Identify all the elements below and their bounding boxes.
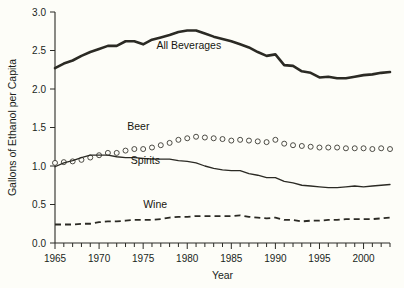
series-all-beverages <box>55 30 390 78</box>
x-axis-tick-label: 1970 <box>88 253 111 264</box>
chart-figure: 0.00.51.01.52.02.53.01965197019751980198… <box>0 0 404 288</box>
y-axis-tick-label: 1.0 <box>32 161 46 172</box>
data-point-marker <box>220 137 225 142</box>
data-point-marker <box>53 160 58 165</box>
series-beer <box>53 134 393 165</box>
data-point-marker <box>238 137 243 142</box>
x-axis-tick-label: 1985 <box>220 253 243 264</box>
data-point-marker <box>202 135 207 140</box>
x-axis-tick-label: 1980 <box>176 253 199 264</box>
data-point-marker <box>176 137 181 142</box>
data-point-marker <box>194 134 199 139</box>
x-axis-title: Year <box>212 269 234 281</box>
y-axis-tick-label: 0.5 <box>32 199 46 210</box>
data-point-marker <box>343 146 348 151</box>
data-point-marker <box>317 145 322 150</box>
data-point-marker <box>335 145 340 150</box>
y-axis-title: Gallons of Ethanol per Capita <box>6 59 18 196</box>
y-axis-tick-label: 2.5 <box>32 45 46 56</box>
series-line <box>55 215 390 224</box>
data-point-marker <box>308 144 313 149</box>
series-label-wine: Wine <box>143 198 167 210</box>
y-axis-tick-label: 0.0 <box>32 238 46 249</box>
beverage-consumption-line-chart: 0.00.51.01.52.02.53.01965197019751980198… <box>0 0 404 288</box>
series-line <box>55 30 390 78</box>
data-point-marker <box>132 147 137 152</box>
data-point-marker <box>123 148 128 153</box>
data-point-marker <box>229 138 234 143</box>
data-point-marker <box>185 136 190 141</box>
series-line <box>55 155 390 187</box>
y-axis-tick-label: 1.5 <box>32 122 46 133</box>
series-annotations: All BeveragesBeerSpiritsWine <box>127 39 221 210</box>
series-label-spirits: Spirits <box>131 154 160 166</box>
data-point-marker <box>149 145 154 150</box>
data-point-marker <box>167 140 172 145</box>
series-label-all-beverages: All Beverages <box>156 39 221 51</box>
data-point-marker <box>264 140 269 145</box>
data-point-marker <box>282 141 287 146</box>
data-point-marker <box>361 146 366 151</box>
data-point-marker <box>370 147 375 152</box>
x-axis-tick-label: 1965 <box>44 253 67 264</box>
data-series <box>53 30 393 224</box>
data-point-marker <box>158 143 163 148</box>
data-point-marker <box>273 137 278 142</box>
data-point-marker <box>114 150 119 155</box>
x-axis-tick-label: 2000 <box>352 253 375 264</box>
data-point-marker <box>326 145 331 150</box>
data-point-marker <box>141 147 146 152</box>
x-axis-tick-label: 1975 <box>132 253 155 264</box>
data-point-marker <box>352 146 357 151</box>
x-axis-tick-label: 1990 <box>264 253 287 264</box>
data-point-marker <box>246 138 251 143</box>
y-axis-tick-label: 3.0 <box>32 7 46 18</box>
data-point-marker <box>379 146 384 151</box>
series-label-beer: Beer <box>127 120 150 132</box>
series-spirits <box>55 155 390 187</box>
x-axis-tick-label: 1995 <box>308 253 331 264</box>
data-point-marker <box>388 147 393 152</box>
series-wine <box>55 215 390 224</box>
data-point-marker <box>299 143 304 148</box>
data-point-marker <box>255 139 260 144</box>
data-point-marker <box>291 143 296 148</box>
y-axis-tick-label: 2.0 <box>32 84 46 95</box>
data-point-marker <box>211 136 216 141</box>
